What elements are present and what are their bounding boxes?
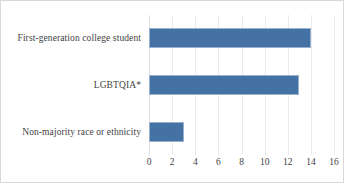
plot-area bbox=[149, 15, 334, 155]
x-tick-label-4: 4 bbox=[193, 157, 198, 167]
bar-row bbox=[149, 62, 334, 109]
bar-lgbtqia bbox=[149, 122, 184, 142]
x-tick-label-6: 6 bbox=[216, 157, 221, 167]
x-tick-label-0: 0 bbox=[147, 157, 152, 167]
category-label-first-generation-college-student: First-generation college student bbox=[18, 15, 142, 62]
bar-row bbox=[149, 108, 334, 155]
x-tick-label-10: 10 bbox=[260, 157, 270, 167]
category-axis-labels: First-generation college student LGBTQIA… bbox=[1, 15, 145, 155]
x-tick-label-12: 12 bbox=[283, 157, 293, 167]
x-tick-label-2: 2 bbox=[170, 157, 175, 167]
bar-row bbox=[149, 15, 334, 62]
category-label-non-majority-race-or-ethnicity: Non-majority race or ethnicity bbox=[22, 108, 141, 155]
category-label-lgbtqia: LGBTQIA* bbox=[94, 62, 141, 109]
x-tick-label-14: 14 bbox=[306, 157, 316, 167]
x-tick-label-8: 8 bbox=[239, 157, 244, 167]
gridline-16 bbox=[334, 15, 335, 155]
x-tick-label-16: 16 bbox=[329, 157, 339, 167]
bar-non-majority-race-or-ethnicity bbox=[149, 28, 311, 48]
bar-first-generation-college-student bbox=[149, 75, 299, 95]
x-axis-tick-labels: 0246810121416 bbox=[149, 157, 334, 173]
bar-chart: First-generation college student LGBTQIA… bbox=[0, 0, 344, 183]
